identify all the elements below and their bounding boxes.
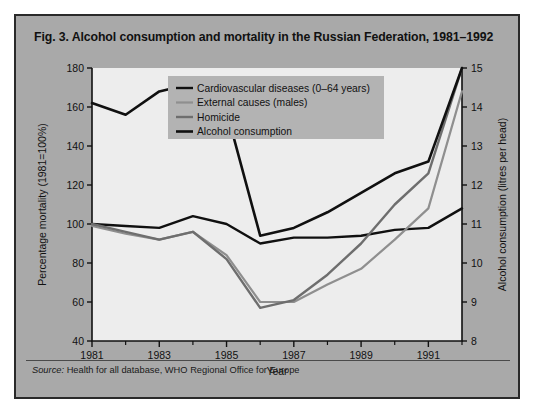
y2-axis-tick-label: 15 [471,62,483,74]
y-axis-tick-label: 160 [66,101,84,113]
legend-label-1: External causes (males) [197,97,307,108]
source-divider [26,360,510,361]
y-axis-tick-label: 80 [72,257,84,269]
y-axis-tick-label: 180 [66,62,84,74]
chart-legend: Cardiovascular diseases (0–64 years)Exte… [168,76,384,139]
legend-label-2: Homicide [197,112,240,123]
legend-label-3: Alcohol consumption [197,126,292,137]
y-axis-tick-label: 120 [66,179,84,191]
chart-plot-area: 4060801001201401601808910111213141519811… [16,16,522,401]
y2-axis-tick-label: 13 [471,140,483,152]
source-label: Source: [32,365,64,375]
y-axis-label: Percentage mortality (1981=100%) [36,123,48,286]
figure-panel: Fig. 3. Alcohol consumption and mortalit… [14,14,520,399]
source-text: Health for all database, WHO Regional Of… [64,365,299,375]
y2-axis-tick-label: 11 [471,218,482,230]
source-note: Source: Health for all database, WHO Reg… [32,365,502,375]
y2-axis-tick-label: 12 [471,179,483,191]
y2-axis-tick-label: 8 [471,335,477,347]
chart-svg: 4060801001201401601808910111213141519811… [16,16,522,401]
y-axis-tick-label: 60 [72,296,84,308]
y-axis-tick-label: 40 [72,335,84,347]
y2-axis-tick-label: 14 [471,101,483,113]
y-axis-tick-label: 100 [66,218,84,230]
y2-axis-tick-label: 9 [471,296,477,308]
y2-axis-tick-label: 10 [471,257,483,269]
y2-axis-label: Alcohol consumption (litres per head) [496,118,508,291]
y-axis-tick-label: 140 [66,140,84,152]
legend-label-0: Cardiovascular diseases (0–64 years) [197,83,370,94]
